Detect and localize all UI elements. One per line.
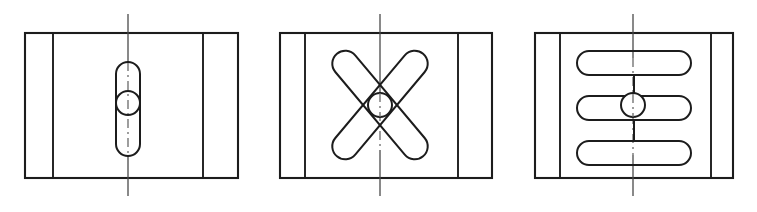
drawing-sheet: Three orthographic section views of a sl… [0, 0, 757, 212]
view-comb-slot [535, 14, 733, 196]
view-cross-slot [280, 14, 492, 196]
view-straight-slot [25, 14, 238, 196]
technical-drawing-canvas [0, 0, 757, 212]
